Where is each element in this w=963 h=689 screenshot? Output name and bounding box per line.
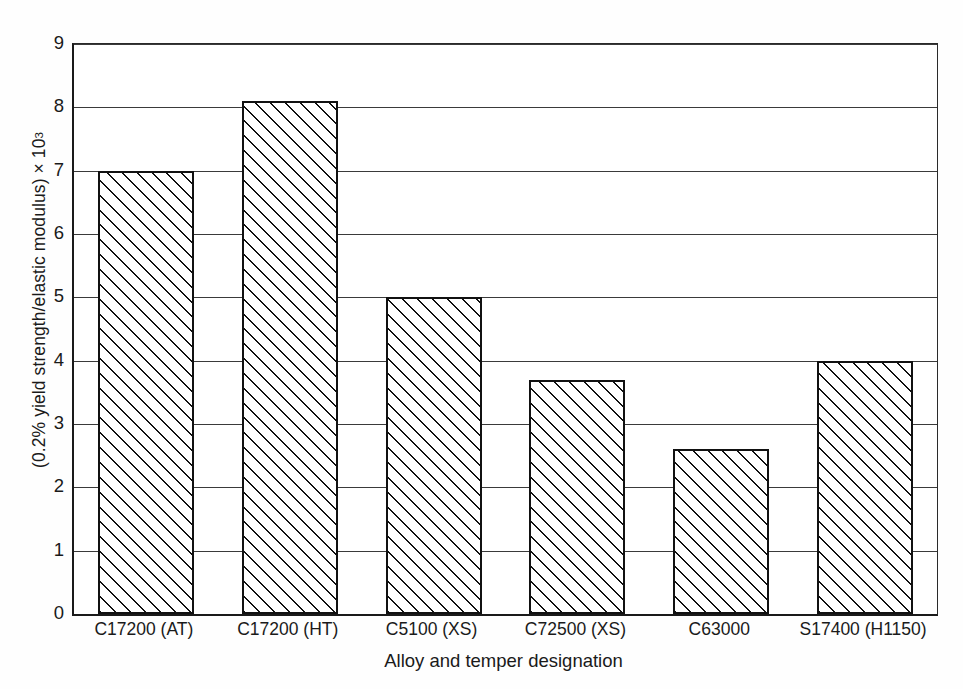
- bar: [98, 171, 194, 614]
- bar: [386, 297, 482, 614]
- bar: [242, 101, 338, 614]
- y-tick-label: 8: [38, 97, 64, 116]
- x-axis-tick-labels: C17200 (AT)C17200 (HT)C5100 (XS)C72500 (…: [72, 619, 935, 649]
- y-tick-label: 9: [38, 34, 64, 53]
- plot-area: [72, 43, 938, 616]
- y-axis-tick-labels: 0123456789: [34, 0, 64, 689]
- y-tick-label: 1: [38, 540, 64, 559]
- bar-chart-figure: (0.2% yield strength/elastic modulus) × …: [0, 0, 963, 689]
- x-tick-label: S17400 (H1150): [800, 619, 927, 640]
- bar: [529, 380, 625, 614]
- bar: [673, 449, 769, 614]
- y-tick-label: 0: [38, 604, 64, 623]
- bar-series: [74, 44, 937, 614]
- y-tick-label: 5: [38, 287, 64, 306]
- x-tick-label: C72500 (XS): [525, 619, 626, 640]
- y-tick-label: 2: [38, 477, 64, 496]
- y-tick-label: 3: [38, 414, 64, 433]
- y-tick-label: 4: [38, 350, 64, 369]
- x-tick-label: C63000: [689, 619, 750, 640]
- x-tick-label: C17200 (AT): [94, 619, 193, 640]
- x-axis-title: Alloy and temper designation: [72, 650, 935, 672]
- y-tick-label: 6: [38, 224, 64, 243]
- x-tick-label: C17200 (HT): [237, 619, 338, 640]
- bar: [817, 361, 913, 614]
- y-tick-label: 7: [38, 160, 64, 179]
- x-tick-label: C5100 (XS): [386, 619, 477, 640]
